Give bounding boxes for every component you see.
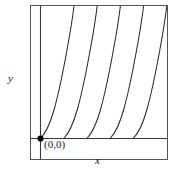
plot-canvas	[0, 0, 176, 170]
plot-frame	[31, 6, 168, 160]
origin-label: (0,0)	[44, 139, 65, 150]
figure-container: (0,0) y x	[0, 0, 176, 170]
origin-dot	[37, 135, 43, 141]
y-axis-label: y	[8, 73, 13, 84]
x-axis-label: x	[95, 155, 100, 166]
